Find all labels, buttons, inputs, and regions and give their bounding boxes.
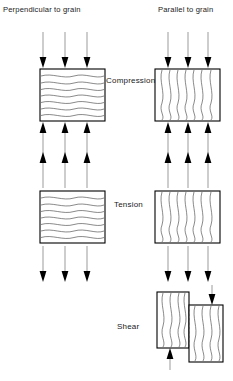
arrows-top bbox=[40, 152, 91, 188]
arrows-top bbox=[165, 32, 212, 68]
grain-loading-diagram: Perpendicular to grain Parallel to grain bbox=[0, 0, 233, 381]
arrows-bottom bbox=[165, 246, 212, 282]
figure-compression-perpendicular bbox=[18, 26, 118, 136]
arrow-shear-top bbox=[209, 285, 216, 305]
row-label-shear: Shear bbox=[117, 322, 139, 331]
arrow-shear-bottom bbox=[167, 348, 174, 370]
figure-tension-parallel bbox=[133, 148, 233, 258]
figure-shear-parallel bbox=[133, 280, 233, 380]
arrows-bottom bbox=[40, 246, 91, 282]
arrows-top bbox=[40, 32, 91, 68]
column-header-perpendicular: Perpendicular to grain bbox=[3, 5, 81, 14]
row-label-tension: Tension bbox=[114, 200, 143, 209]
row-label-compression: Compression bbox=[106, 76, 155, 85]
column-header-parallel: Parallel to grain bbox=[158, 5, 213, 14]
figure-tension-perpendicular bbox=[18, 148, 118, 258]
arrows-top bbox=[165, 152, 212, 188]
